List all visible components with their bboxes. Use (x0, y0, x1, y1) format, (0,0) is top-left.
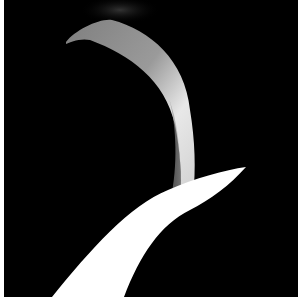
haze (80, 0, 160, 24)
light-beam (52, 167, 246, 297)
abstract-ribbon-image (4, 0, 298, 297)
photo-frame (4, 0, 298, 297)
